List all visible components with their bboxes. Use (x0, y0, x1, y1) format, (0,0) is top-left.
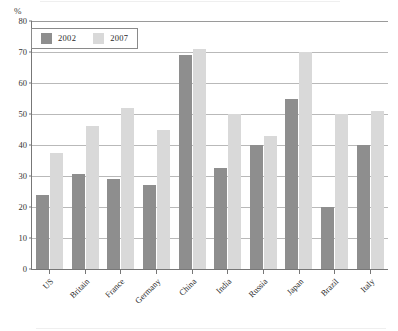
x-axis-tick-label-japan: Japan (285, 277, 305, 297)
bar-group-italy (352, 21, 388, 269)
x-axis-tick-mark-britain (85, 270, 86, 274)
x-axis-tick-labels: USBritainFranceGermanyChinaIndiaRussiaJa… (31, 270, 388, 331)
legend-label-2007: 2007 (110, 34, 128, 43)
x-axis-tick-label-us: US (41, 277, 55, 291)
bar-germany-2002 (143, 185, 156, 269)
y-axis-tick-label-0: 0 (23, 265, 27, 274)
x-axis-tick-china: China (174, 270, 210, 331)
scan-artifact-top (40, 1, 340, 2)
y-axis-tick-label-70: 70 (19, 48, 28, 57)
bar-group-britain (68, 21, 104, 269)
bar-japan-2002 (285, 99, 298, 270)
x-axis-tick-germany: Germany (138, 270, 174, 331)
bar-britain-2007 (86, 126, 99, 269)
y-axis-unit-label: % (14, 6, 22, 16)
x-axis-tick-brazil: Brazil (317, 270, 353, 331)
x-axis-tick-japan: Japan (281, 270, 317, 331)
bar-group-brazil (317, 21, 353, 269)
bar-china-2007 (193, 49, 206, 269)
x-axis-tick-india: India (210, 270, 246, 331)
bar-france-2007 (121, 108, 134, 269)
legend-entry-2007: 2007 (93, 33, 128, 44)
bar-india-2007 (228, 114, 241, 269)
x-axis-tick-mark-china (192, 270, 193, 274)
bar-japan-2007 (299, 52, 312, 269)
bar-france-2002 (107, 179, 120, 269)
bar-germany-2007 (157, 130, 170, 270)
x-axis-tick-label-france: France (104, 277, 126, 299)
y-axis-tick-label-20: 20 (19, 203, 28, 212)
y-axis-tick-label-60: 60 (19, 79, 28, 88)
x-axis-tick-mark-us (49, 270, 50, 274)
y-axis-tick-label-80: 80 (19, 17, 28, 26)
bar-brazil-2007 (335, 114, 348, 269)
bar-group-china (174, 21, 210, 269)
x-axis-tick-label-brazil: Brazil (320, 277, 341, 298)
bar-brazil-2002 (321, 207, 334, 269)
x-axis-tick-russia: Russia (245, 270, 281, 331)
bar-china-2002 (179, 55, 192, 269)
x-axis-tick-label-china: China (177, 277, 197, 297)
chart-legend: 2002 2007 (31, 28, 138, 49)
x-axis-tick-label-germany: Germany (134, 277, 162, 305)
x-axis-tick-mark-russia (263, 270, 264, 274)
y-axis-tick-label-30: 30 (19, 172, 28, 181)
x-axis-tick-mark-brazil (334, 270, 335, 274)
x-axis-tick-mark-india (227, 270, 228, 274)
bar-group-germany (139, 21, 175, 269)
bar-russia-2002 (250, 145, 263, 269)
x-axis-tick-mark-italy (370, 270, 371, 274)
x-axis-tick-label-italy: Italy (359, 277, 376, 294)
bars-layer (32, 21, 388, 269)
bar-us-2002 (36, 195, 49, 269)
x-axis-tick-mark-japan (299, 270, 300, 274)
x-axis-tick-label-britain: Britain (68, 277, 91, 300)
legend-swatch-icon-2007 (93, 33, 104, 44)
bar-india-2002 (214, 168, 227, 269)
bar-group-us (32, 21, 68, 269)
x-axis-tick-britain: Britain (67, 270, 103, 331)
y-axis-tick-label-40: 40 (19, 141, 28, 150)
y-axis-tick-label-50: 50 (19, 110, 28, 119)
y-axis-tick-label-10: 10 (19, 234, 28, 243)
bar-group-india (210, 21, 246, 269)
x-axis-tick-mark-france (120, 270, 121, 274)
bar-italy-2007 (371, 111, 384, 269)
plot-area: 01020304050607080 (31, 21, 388, 270)
x-axis-tick-italy: Italy (352, 270, 388, 331)
x-axis-tick-label-russia: Russia (247, 277, 269, 299)
bar-us-2007 (50, 153, 63, 269)
bar-britain-2002 (72, 174, 85, 269)
legend-entry-2002: 2002 (41, 33, 76, 44)
x-axis-tick-france: France (102, 270, 138, 331)
bar-group-russia (246, 21, 282, 269)
legend-label-2002: 2002 (58, 34, 76, 43)
bar-chart-figure: % 01020304050607080 USBritainFranceGerma… (0, 0, 398, 331)
bar-italy-2002 (357, 145, 370, 269)
bar-group-france (103, 21, 139, 269)
bar-russia-2007 (264, 136, 277, 269)
bar-group-japan (281, 21, 317, 269)
x-axis-tick-label-india: India (215, 277, 233, 295)
x-axis-tick-us: US (31, 270, 67, 331)
legend-swatch-icon-2002 (41, 33, 52, 44)
x-axis-tick-mark-germany (156, 270, 157, 274)
